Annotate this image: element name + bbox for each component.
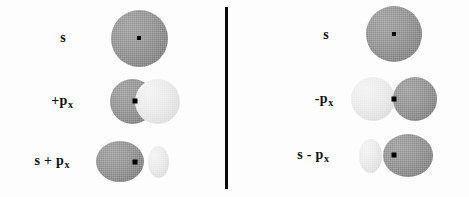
- left-s-label: s: [60, 31, 66, 45]
- right-px-positive-lobe: [351, 77, 395, 121]
- right-hybrid-major-lobe: [383, 134, 433, 177]
- right-minus-px-label-subscript: x: [328, 97, 333, 108]
- right-px-negative-lobe: [393, 77, 437, 121]
- left-plus-px-label-text: +p: [51, 93, 67, 108]
- right-px-nucleus-dot: [392, 97, 397, 102]
- right-minus-px-label-text: -p: [315, 91, 328, 106]
- right-s-label: s: [323, 28, 329, 42]
- panel-divider: [225, 7, 228, 189]
- right-hybrid-nucleus-dot: [392, 153, 397, 158]
- left-hybrid-nucleus-dot: [133, 160, 138, 165]
- right-s-label-text: s: [323, 27, 329, 42]
- left-s-plus-px-label-text: s + p: [34, 153, 64, 168]
- left-s-plus-px-label-subscript: x: [65, 159, 70, 170]
- right-s-minus-px-label-subscript: x: [324, 153, 329, 164]
- left-s-nucleus-dot: [137, 36, 141, 40]
- left-s-label-text: s: [60, 30, 66, 45]
- left-hybrid-minor-lobe: [148, 146, 169, 178]
- left-s-plus-px-label: s + px: [34, 154, 69, 168]
- left-px-nucleus-dot: [133, 99, 138, 104]
- right-minus-px-label: -px: [315, 92, 333, 106]
- orbital-diagram: s +px s + px s -px: [0, 0, 469, 197]
- right-s-nucleus-dot: [392, 32, 396, 36]
- right-hybrid-minor-lobe: [359, 139, 382, 173]
- left-plus-px-label-subscript: x: [68, 99, 73, 110]
- right-s-minus-px-label-text: s - p: [297, 147, 323, 162]
- right-s-minus-px-label: s - px: [297, 148, 329, 162]
- left-px-positive-lobe: [135, 79, 180, 124]
- left-plus-px-label: +px: [51, 94, 73, 108]
